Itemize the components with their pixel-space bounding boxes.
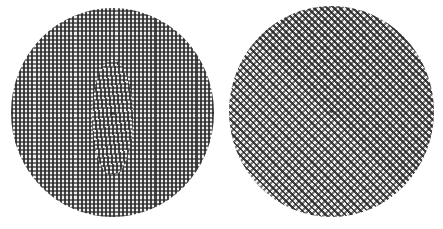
left-center-defect — [111, 112, 114, 115]
left-grating-disc — [11, 8, 214, 217]
right-grating-disc — [229, 6, 434, 217]
right-center-defect — [330, 110, 333, 113]
left-grating-distortion — [92, 60, 133, 175]
